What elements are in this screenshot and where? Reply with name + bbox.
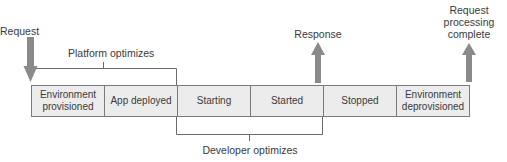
stage-label: Started: [271, 95, 303, 107]
developer-bracket: [177, 117, 323, 141]
request-complete-arrow-icon: [462, 43, 476, 82]
stage-label-line2: deprovisioned: [402, 101, 464, 113]
request-complete-line2: processing: [444, 16, 495, 28]
response-label: Response: [294, 28, 341, 40]
request-complete-line1: Request: [444, 4, 495, 16]
stage-label: Stopped: [341, 95, 378, 107]
request-complete-label: Request processing complete: [444, 4, 495, 40]
request-complete-line3: complete: [444, 28, 495, 40]
stage-starting: Starting: [178, 86, 251, 116]
request-label: Request: [0, 25, 39, 37]
stage-environment-deprovisioned: Environment deprovisioned: [397, 86, 469, 116]
stage-started: Started: [251, 86, 324, 116]
lifecycle-timeline: Environment provisioned App deployed Sta…: [31, 85, 470, 117]
request-arrow-icon: [24, 37, 38, 82]
stage-label-line1: Environment: [402, 89, 464, 101]
stage-stopped: Stopped: [324, 86, 397, 116]
platform-optimizes-label: Platform optimizes: [68, 47, 154, 59]
developer-optimizes-label: Developer optimizes: [202, 144, 297, 156]
stage-label: App deployed: [110, 95, 171, 107]
response-arrow-icon: [311, 42, 325, 83]
stage-environment-provisioned: Environment provisioned: [32, 86, 105, 116]
stage-label: Starting: [197, 95, 231, 107]
stage-label-line1: Environment: [40, 89, 96, 101]
stage-app-deployed: App deployed: [105, 86, 178, 116]
stage-label-line2: provisioned: [40, 101, 96, 113]
diagram-graphics: [0, 0, 507, 162]
platform-bracket: [36, 62, 177, 85]
